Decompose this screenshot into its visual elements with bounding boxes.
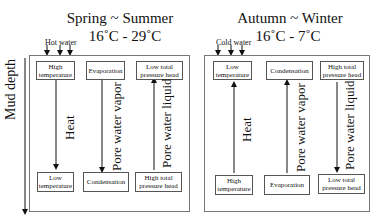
- right-temperature: 16˚C - 7˚C: [238, 28, 338, 45]
- left-flow-vapor: Pore water vapor: [109, 82, 125, 171]
- left-temperature: 16˚C - 29˚C: [75, 28, 175, 45]
- left-flow-heat: Heat: [62, 115, 78, 140]
- right-flow-liquid: Pore water liquid: [342, 80, 358, 170]
- left-bottom-box-2: Condensation: [83, 172, 129, 192]
- right-title: Autumn ~ Winter: [230, 10, 350, 27]
- mud-depth-label: Mud depth: [3, 59, 19, 120]
- left-bottom-box-3: High total pressure head: [135, 172, 182, 192]
- left-water-label: Hot water: [45, 38, 77, 47]
- right-water-label: Cold water: [216, 38, 251, 47]
- right-bottom-box-1: High temperature: [215, 175, 253, 195]
- left-top-box-1: High temperature: [36, 61, 75, 80]
- right-top-box-3: High total pressure head: [320, 61, 364, 80]
- right-bottom-box-2: Evaporation: [264, 175, 310, 195]
- left-bottom-box-1: Low temperature: [37, 172, 74, 192]
- left-flow-liquid: Pore water liquid: [159, 78, 175, 168]
- right-flow-vapor: Pore water vapor: [293, 83, 309, 172]
- left-title: Spring ~ Summer: [60, 10, 180, 27]
- right-top-box-2: Condensation: [266, 61, 313, 80]
- right-flow-heat: Heat: [239, 117, 255, 142]
- right-bottom-box-3: Low total pressure head: [318, 174, 365, 194]
- right-top-box-1: Low temperature: [213, 61, 252, 80]
- left-top-box-2: Evaporation: [86, 61, 125, 80]
